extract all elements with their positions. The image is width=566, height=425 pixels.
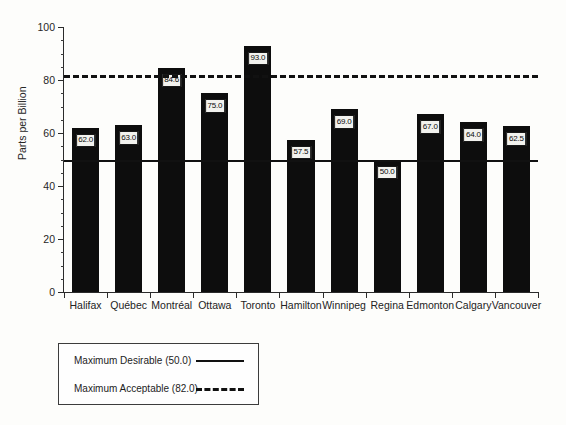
x-axis-tick-label: Calgary	[455, 300, 491, 311]
bar: 62.0	[72, 128, 99, 292]
bar: 63.0	[115, 125, 142, 292]
x-axis-tick	[409, 292, 410, 298]
bar-value-label: 67.0	[420, 120, 440, 134]
x-axis-tick	[64, 292, 65, 298]
x-axis-tick	[452, 292, 453, 298]
x-axis-tick	[193, 292, 194, 298]
y-axis-tick-label: 40	[43, 181, 55, 192]
bar-value-label: 75.0	[205, 99, 225, 113]
reference-line-dashed	[64, 75, 538, 78]
y-axis-minor-tick	[61, 252, 65, 253]
legend-dashed-line-swatch	[196, 388, 244, 391]
x-axis-tick	[538, 292, 539, 298]
y-axis-tick-label: 100	[37, 22, 55, 33]
bar: 67.0	[417, 114, 444, 292]
y-axis-minor-tick	[61, 279, 65, 280]
legend-item-label: Maximum Desirable (50.0)	[74, 356, 191, 366]
reference-line-solid	[64, 160, 538, 162]
y-axis-minor-tick	[61, 146, 65, 147]
y-axis-tick	[58, 133, 64, 134]
y-axis-minor-tick	[61, 266, 65, 267]
bar-value-label: 62.0	[76, 134, 96, 148]
y-axis-tick-label: 60	[43, 128, 55, 139]
x-axis-tick	[323, 292, 324, 298]
bar: 75.0	[201, 93, 228, 292]
y-axis-tick	[58, 80, 64, 81]
bar-chart-figure: Parts per Billion 02040608010062.0Halifa…	[0, 0, 566, 425]
x-axis-tick-label: Halifax	[69, 300, 101, 311]
x-axis-tick	[495, 292, 496, 298]
x-axis-tick-label: Winnipeg	[322, 300, 366, 311]
legend-item-label: Maximum Acceptable (82.0)	[74, 384, 198, 394]
bar: 57.5	[287, 140, 314, 292]
x-axis-tick	[366, 292, 367, 298]
y-axis-title: Parts per Billion	[16, 86, 28, 160]
bar-value-label: 57.5	[291, 146, 311, 160]
x-axis-tick-label: Hamilton	[280, 300, 321, 311]
y-axis-minor-tick	[61, 54, 65, 55]
y-axis-minor-tick	[61, 226, 65, 227]
x-axis-tick	[279, 292, 280, 298]
plot-area: 02040608010062.0Halifax63.0Québec84.6Mon…	[63, 27, 538, 293]
legend-item-maximum-desirable: Maximum Desirable (50.0)	[59, 354, 258, 368]
bar: 64.0	[460, 122, 487, 292]
x-axis-tick-label: Montréal	[151, 300, 192, 311]
bar: 50.0	[374, 160, 401, 293]
y-axis-minor-tick	[61, 173, 65, 174]
x-axis-tick	[107, 292, 108, 298]
bar-value-label: 63.0	[119, 131, 139, 145]
x-axis-tick-label: Edmonton	[406, 300, 454, 311]
y-axis-tick	[58, 27, 64, 28]
x-axis-tick-label: Toronto	[240, 300, 275, 311]
y-axis-minor-tick	[61, 93, 65, 94]
y-axis-tick	[58, 186, 64, 187]
x-axis-tick	[236, 292, 237, 298]
bar: 62.5	[503, 126, 530, 292]
legend-item-maximum-acceptable: Maximum Acceptable (82.0)	[59, 382, 258, 396]
y-axis-minor-tick	[61, 199, 65, 200]
bar-value-label: 62.5	[507, 132, 527, 146]
legend-solid-line-swatch	[196, 360, 244, 362]
x-axis-tick	[150, 292, 151, 298]
y-axis-tick-label: 0	[49, 287, 55, 298]
x-axis-tick-label: Regina	[371, 300, 404, 311]
y-axis-minor-tick	[61, 120, 65, 121]
y-axis-tick	[58, 239, 64, 240]
x-axis-tick-label: Québec	[110, 300, 147, 311]
y-axis-minor-tick	[61, 67, 65, 68]
x-axis-tick-label: Ottawa	[198, 300, 231, 311]
y-axis-minor-tick	[61, 107, 65, 108]
x-axis-tick-label: Vancouver	[492, 300, 541, 311]
bar: 69.0	[331, 109, 358, 292]
y-axis-tick-label: 20	[43, 234, 55, 245]
bar-value-label: 64.0	[463, 128, 483, 142]
bar-value-label: 69.0	[334, 115, 354, 129]
y-axis-minor-tick	[61, 40, 65, 41]
bar: 84.6	[158, 68, 185, 292]
bar: 93.0	[244, 46, 271, 292]
y-axis-minor-tick	[61, 213, 65, 214]
bar-value-label: 50.0	[377, 166, 397, 180]
y-axis-tick-label: 80	[43, 75, 55, 86]
bar-value-label: 93.0	[248, 52, 268, 66]
chart-legend: Maximum Desirable (50.0) Maximum Accepta…	[58, 343, 259, 405]
